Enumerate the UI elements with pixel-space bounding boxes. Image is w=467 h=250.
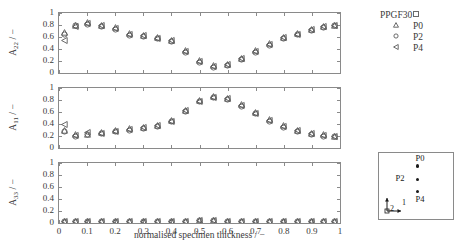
data-point-P4 [168,218,175,223]
x-tick [171,13,172,16]
inset-point-label-P4: P4 [415,194,424,204]
data-point-P4 [320,23,327,30]
y-tick [59,88,62,89]
y-tick [59,112,62,113]
x-tick [200,70,201,73]
inset-point-label-P2: P2 [395,173,404,183]
data-point-P4 [98,22,105,29]
x-tick-label: 0.2 [104,226,126,236]
data-point-P4 [294,31,301,38]
y-tick [59,100,62,101]
y-tick-label: 1 [28,82,54,92]
data-point-P4 [252,110,259,117]
x-tick [115,13,116,16]
y-tick [337,199,340,200]
x-tick [200,163,201,166]
x-tick-label: 0.3 [132,226,154,236]
y-tick [59,13,62,14]
data-point-P4 [224,218,231,223]
data-point-P4 [280,218,287,223]
y-tick [59,61,62,62]
inset-point-P2 [416,178,420,182]
ylabel-a33: A33 / − [8,157,21,227]
triangle-up-icon [391,21,405,30]
y-tick-label: 0.8 [28,19,54,29]
inset-point-P0 [416,164,420,168]
data-point-P4 [331,218,338,223]
y-tick-label: 0.6 [28,106,54,116]
data-point-P4 [168,37,175,44]
x-tick [284,163,285,166]
data-point-P4 [224,95,231,102]
square-icon [413,11,419,17]
data-point-P4 [154,35,161,42]
x-tick-label: 0 [48,226,70,236]
y-tick [59,199,62,200]
x-tick [284,13,285,16]
x-tick [256,13,257,16]
x-tick [256,70,257,73]
data-point-P4 [126,31,133,38]
plot-area-a11 [59,88,340,148]
x-tick [228,145,229,148]
y-tick [59,187,62,188]
data-point-P4 [154,218,161,223]
data-point-P4 [252,218,259,223]
data-point-P4 [112,128,119,135]
y-tick-label: 0 [28,67,54,77]
x-tick [312,145,313,148]
legend-entry-P2[interactable]: P2 [379,31,463,42]
data-point-P4 [294,127,301,134]
plot-area-a22 [59,13,340,73]
data-point-P4 [308,130,315,137]
data-point-P4 [331,22,338,29]
data-point-P4 [140,124,147,131]
data-point-P4 [61,121,68,128]
triangle-left-icon [391,43,405,52]
data-point-P4 [98,130,105,137]
inset-point-P4 [416,190,420,194]
y-tick-label: 0.4 [28,43,54,53]
data-point-P4 [320,218,327,223]
legend-entry-label: P4 [413,43,423,53]
x-tick [228,70,229,73]
x-tick [143,88,144,91]
x-tick-label: 0.7 [245,226,267,236]
x-tick [143,145,144,148]
y-tick [59,163,62,164]
data-point-P4 [224,61,231,68]
x-tick-label: 0.8 [273,226,295,236]
data-point-P4 [112,218,119,223]
x-tick [284,88,285,91]
data-point-P4 [294,218,301,223]
x-tick [87,163,88,166]
x-tick [228,13,229,16]
legend-entry-P4[interactable]: P4 [379,42,463,53]
y-tick [59,211,62,212]
x-tick [115,88,116,91]
data-point-P4 [238,55,245,62]
x-tick [228,88,229,91]
x-tick [87,88,88,91]
data-point-P4 [182,218,189,223]
data-point-P4 [280,123,287,130]
ylabel-a11: A11 / − [8,82,21,152]
x-tick [284,145,285,148]
data-point-P4 [84,20,91,27]
legend-entry-P0[interactable]: P0 [379,20,463,31]
y-tick-label: 0.6 [28,181,54,191]
x-tick [87,145,88,148]
y-tick [337,163,340,164]
figure-root: A22 / − A11 / − A33 / − normalised speci… [0,0,467,250]
y-tick-label: 0.2 [28,205,54,215]
inset-point-label-P0: P0 [415,153,424,163]
y-tick [337,211,340,212]
data-point-P4 [266,218,273,223]
data-point-P4 [210,217,217,223]
data-point-P4 [168,118,175,125]
data-point-P4 [238,218,245,223]
y-tick [337,88,340,89]
y-tick [59,49,62,50]
x-tick [87,70,88,73]
panel-a11 [58,87,341,149]
